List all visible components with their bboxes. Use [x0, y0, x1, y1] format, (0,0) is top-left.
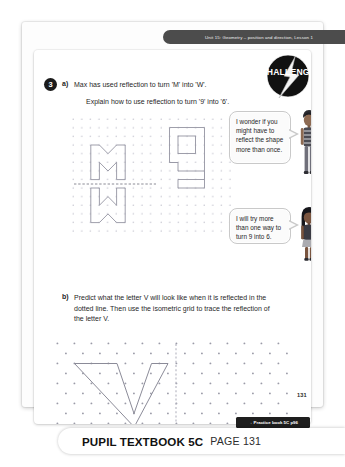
speech-bubble-2: I will try more than one way to turn 9 i…: [229, 208, 291, 244]
speech-bubble-2-text: I will try more than one way to turn 9 i…: [236, 215, 281, 240]
square-grid-nine: [160, 118, 232, 236]
footer-bar: PUPIL TEXTBOOK 5C PAGE 131: [58, 428, 345, 454]
speech-bubble-1-text: I wonder if you might have to reflect th…: [236, 118, 283, 153]
practice-book-tag[interactable]: → Practice book 5C p96: [236, 417, 310, 428]
corner-page-number: 131: [297, 392, 307, 398]
part-b-label: b): [62, 293, 69, 300]
speech-bubble-2-tail-inner: [288, 221, 296, 229]
challenge-badge-label: CHALLENGE: [262, 67, 311, 77]
question-number-text: 3: [48, 80, 52, 89]
footer-title: PUPIL TEXTBOOK 5C: [82, 435, 203, 448]
unit-banner: Unit 15: Geometry – position and directi…: [163, 30, 345, 44]
question-number-badge: 3: [44, 78, 57, 91]
challenge-badge: CHALLENGE: [262, 51, 311, 103]
textbook-page-sheet: Unit 15: Geometry – position and directi…: [22, 22, 323, 407]
girl-character-illustration: [296, 205, 311, 263]
unit-banner-text: Unit 15: Geometry – position and directi…: [205, 35, 313, 40]
speech-bubble-1-tail-inner: [288, 130, 296, 138]
part-a-line-1: Max has used reflection to turn 'M' into…: [74, 80, 289, 91]
practice-book-tag-text: → Practice book 5C p96: [248, 420, 298, 425]
speech-bubble-1: I wonder if you might have to reflect th…: [229, 111, 291, 164]
activity-card: 3 a) Max has used reflection to turn 'M'…: [34, 50, 311, 424]
footer-page-label: PAGE 131: [210, 435, 261, 447]
isometric-grid-v: [56, 342, 288, 424]
boy-character-illustration: [296, 108, 311, 178]
square-grid-mw: [72, 118, 158, 236]
part-b-text: Predict what the letter V will look like…: [74, 293, 274, 325]
part-a-label: a): [62, 80, 68, 87]
